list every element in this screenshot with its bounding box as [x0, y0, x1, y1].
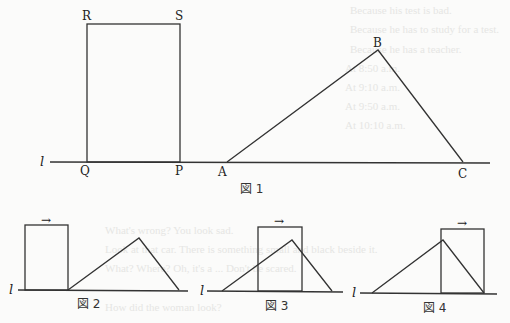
figure-1-caption: 図 1 — [240, 182, 263, 196]
triangle — [372, 240, 484, 293]
rectangle-pqrs — [87, 24, 180, 162]
figure-4-caption: 図 4 — [423, 301, 446, 315]
line-l-label: l — [9, 282, 13, 297]
svg-text:Because he has to study for a: Because he has to study for a test. — [350, 23, 499, 35]
rectangle — [258, 227, 302, 291]
point-b-label: B — [373, 36, 382, 50]
figure-2-caption: 図 2 — [77, 297, 100, 311]
arrow-right-icon: → — [457, 216, 467, 230]
line-l-label: l — [40, 154, 44, 169]
point-c-label: C — [458, 167, 467, 181]
rectangle — [25, 225, 68, 290]
figure-3-caption: 図 3 — [265, 299, 288, 313]
svg-text:At 9:50 a.m.: At 9:50 a.m. — [345, 100, 400, 112]
svg-text:How did the woman look?: How did the woman look? — [105, 301, 222, 313]
point-p-label: P — [175, 164, 183, 178]
line-l-label: l — [352, 285, 356, 300]
svg-text:At 10:10 a.m.: At 10:10 a.m. — [345, 119, 406, 131]
line-l-label: l — [200, 283, 204, 298]
svg-text:What? Where? Oh, it's a ... Do: What? Where? Oh, it's a ... Don't be sca… — [105, 262, 297, 274]
arrow-right-icon: → — [274, 214, 284, 228]
point-s-label: S — [175, 9, 183, 23]
svg-text:Look at that car. There is som: Look at that car. There is something sma… — [105, 243, 378, 255]
svg-text:At 9:10 a.m.: At 9:10 a.m. — [345, 81, 400, 93]
svg-text:What's wrong? You look sad.: What's wrong? You look sad. — [105, 224, 234, 236]
point-q-label: Q — [80, 164, 90, 178]
figure-1: l R S Q P A B C 図 1 — [40, 9, 490, 196]
figure-4: l → 図 4 — [352, 216, 497, 315]
arrow-right-icon: → — [41, 213, 51, 227]
point-r-label: R — [82, 9, 92, 23]
svg-text:Because he has a teacher.: Because he has a teacher. — [350, 43, 462, 55]
svg-text:Because his test is bad.: Because his test is bad. — [350, 4, 452, 16]
point-a-label: A — [217, 165, 227, 179]
geometry-figures: Because his test is bad. Because he has … — [0, 0, 510, 323]
rectangle — [441, 229, 484, 293]
